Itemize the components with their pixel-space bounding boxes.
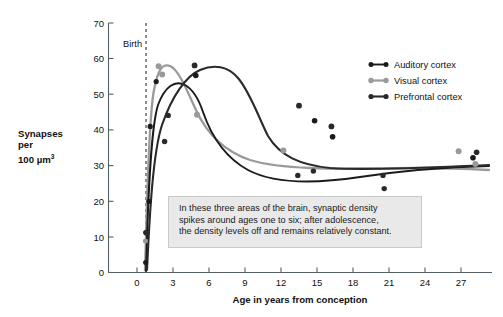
birth-label: Birth <box>123 39 142 49</box>
data-point <box>296 103 302 109</box>
legend-item-visual-cortex[interactable]: Visual cortex <box>368 76 447 86</box>
x-tick-label-0: 0 <box>134 277 139 288</box>
data-point <box>329 124 335 130</box>
chart-legend: Auditory cortex Visual cortex Prefrontal… <box>368 60 462 102</box>
data-point <box>143 260 148 265</box>
legend-label-auditory: Auditory cortex <box>394 60 456 70</box>
y-tick-label-30: 30 <box>93 160 104 171</box>
x-axis-ticks <box>137 268 461 273</box>
x-tick-label-24: 24 <box>420 277 431 288</box>
x-tick-label-15: 15 <box>312 277 323 288</box>
data-point <box>144 231 149 236</box>
y-tick-label-40: 40 <box>93 124 104 135</box>
data-point <box>148 124 153 129</box>
legend-item-auditory-cortex[interactable]: Auditory cortex <box>369 60 457 70</box>
legend-marker-icon <box>369 62 374 67</box>
data-point <box>162 139 167 144</box>
data-point <box>474 150 480 156</box>
data-point <box>193 73 199 79</box>
data-point <box>156 63 162 69</box>
data-point <box>166 113 171 118</box>
datapoints-prefrontal-cortex <box>144 63 479 236</box>
x-tick-label-3: 3 <box>170 277 175 288</box>
data-point <box>456 148 462 154</box>
birth-marker: Birth <box>123 23 146 272</box>
y-tick-label-70: 70 <box>93 18 104 29</box>
datapoints-visual-cortex <box>143 63 479 243</box>
y-tick-label-60: 60 <box>93 53 104 64</box>
x-tick-label-27: 27 <box>456 277 467 288</box>
data-point <box>154 79 159 84</box>
x-tick-label-18: 18 <box>348 277 359 288</box>
data-point <box>280 147 286 153</box>
legend-marker-icon <box>383 94 388 99</box>
data-point <box>295 173 300 178</box>
data-point <box>143 239 148 244</box>
data-point <box>159 71 165 77</box>
legend-item-prefrontal-cortex[interactable]: Prefrontal cortex <box>368 92 462 102</box>
y-tick-label-50: 50 <box>93 89 104 100</box>
legend-label-visual: Visual cortex <box>394 76 447 86</box>
data-point <box>470 155 476 161</box>
x-tick-label-21: 21 <box>384 277 395 288</box>
data-point <box>312 118 318 124</box>
legend-marker-icon <box>368 78 373 83</box>
data-point <box>380 173 385 178</box>
y-tick-label-0: 0 <box>99 267 104 278</box>
synaptic-density-chart: Synapses per 100 µm3 In these three area… <box>0 0 503 317</box>
x-axis-title: Age in years from conception <box>233 294 368 305</box>
x-tick-label-12: 12 <box>276 277 287 288</box>
legend-marker-icon <box>383 78 388 83</box>
legend-marker-icon <box>368 94 373 99</box>
y-tick-label-20: 20 <box>93 196 104 207</box>
data-point <box>472 161 478 167</box>
chart-canvas: 0 10 20 30 40 50 60 70 <box>0 0 503 317</box>
legend-label-prefrontal: Prefrontal cortex <box>394 92 463 102</box>
data-point <box>194 112 200 118</box>
x-tick-label-6: 6 <box>206 277 211 288</box>
data-point <box>192 63 198 69</box>
data-point <box>382 186 387 191</box>
legend-marker-icon <box>384 62 389 67</box>
x-axis-tick-labels: 0 3 6 9 12 15 18 21 24 27 <box>134 277 466 288</box>
y-axis: 0 10 20 30 40 50 60 70 <box>93 18 113 279</box>
y-tick-label-10: 10 <box>93 232 104 243</box>
data-point <box>330 134 336 140</box>
y-axis-ticks <box>109 23 114 273</box>
x-axis: 0 3 6 9 12 15 18 21 24 27 Age in years f… <box>109 268 493 306</box>
data-point <box>311 168 316 173</box>
x-tick-label-9: 9 <box>242 277 247 288</box>
data-point <box>146 199 151 204</box>
y-axis-tick-labels: 0 10 20 30 40 50 60 70 <box>93 18 104 279</box>
